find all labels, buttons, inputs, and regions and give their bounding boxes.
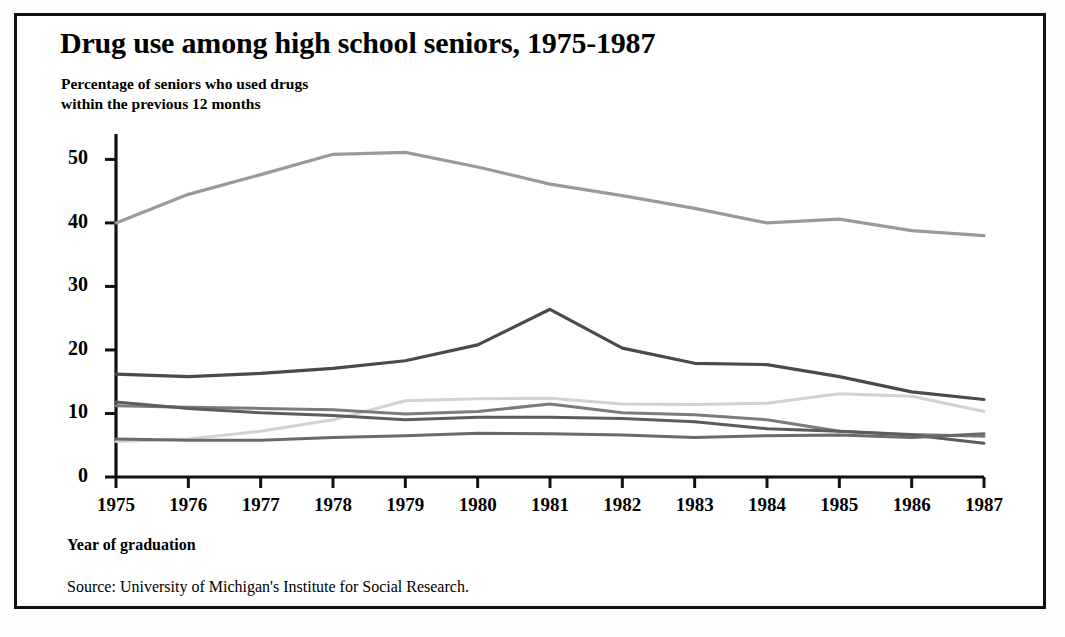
y-axis-tick-label: 10 bbox=[48, 400, 88, 423]
source-note: Source: University of Michigan's Institu… bbox=[67, 578, 469, 596]
x-axis-tick-label: 1976 bbox=[153, 494, 223, 516]
x-axis-tick-label: 1978 bbox=[298, 494, 368, 516]
y-axis-tick-label: 20 bbox=[48, 337, 88, 360]
x-axis-tick-label: 1979 bbox=[370, 494, 440, 516]
page-title: Drug use among high school seniors, 1975… bbox=[60, 26, 655, 60]
x-axis-tick-label: 1987 bbox=[949, 494, 1019, 516]
x-axis-tick-label: 1985 bbox=[804, 494, 874, 516]
chart-figure: Drug use among high school seniors, 1975… bbox=[0, 0, 1065, 637]
x-axis-tick-label: 1984 bbox=[732, 494, 802, 516]
x-axis-tick-label: 1980 bbox=[443, 494, 513, 516]
x-axis-tick-label: 1982 bbox=[587, 494, 657, 516]
y-axis-tick-label: 50 bbox=[48, 146, 88, 169]
x-axis-tick-label: 1981 bbox=[515, 494, 585, 516]
chart-subtitle: Percentage of seniors who used drugs wit… bbox=[61, 74, 308, 114]
y-axis-tick-label: 30 bbox=[48, 273, 88, 296]
x-axis-tick-label: 1975 bbox=[81, 494, 151, 516]
x-axis-tick-label: 1983 bbox=[660, 494, 730, 516]
x-axis-tick-label: 1977 bbox=[226, 494, 296, 516]
y-axis-tick-label: 0 bbox=[48, 464, 88, 487]
y-axis-tick-label: 40 bbox=[48, 210, 88, 233]
x-axis-tick-label: 1986 bbox=[877, 494, 947, 516]
x-axis-title: Year of graduation bbox=[67, 536, 196, 554]
